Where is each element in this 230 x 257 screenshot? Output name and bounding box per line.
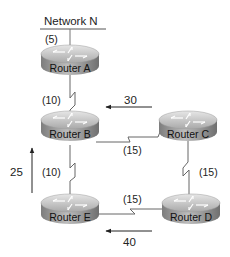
link-a-b xyxy=(70,68,75,118)
network-cost: (5) xyxy=(45,33,58,45)
svg-text:Router D: Router D xyxy=(170,211,212,223)
svg-text:Router C: Router C xyxy=(167,128,209,140)
flow-label-25: 25 xyxy=(10,166,23,178)
router-a: Router A xyxy=(41,45,99,75)
network-label: Network N xyxy=(44,15,98,27)
svg-text:Router E: Router E xyxy=(49,211,90,223)
router-e: Router E xyxy=(41,194,99,224)
link-b-e-cost: (10) xyxy=(42,166,61,178)
link-b-c-cost: (15) xyxy=(123,144,142,156)
router-b: Router B xyxy=(41,111,99,141)
router-d: Router D xyxy=(162,194,220,224)
link-b-c xyxy=(96,132,170,142)
flow-label-40: 40 xyxy=(123,236,136,248)
network-diagram: Network N (5) (10) (15) (15) (15) (10) R… xyxy=(0,0,230,257)
link-a-b-cost: (10) xyxy=(42,94,61,106)
flow-label-30: 30 xyxy=(124,94,137,106)
svg-text:Router A: Router A xyxy=(50,62,91,74)
svg-text:Router B: Router B xyxy=(49,128,90,140)
router-c: Router C xyxy=(159,111,217,141)
link-d-e-cost: (15) xyxy=(123,193,142,205)
link-c-d-cost: (15) xyxy=(199,166,218,178)
link-d-e xyxy=(92,209,163,214)
